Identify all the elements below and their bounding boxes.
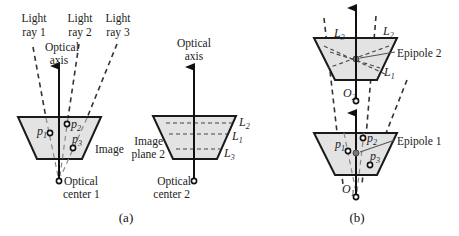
bottom-point-p2 — [360, 135, 365, 140]
L2-label: L2 — [238, 115, 250, 131]
caption-b: (b) — [349, 210, 364, 225]
bottom-point-p1 — [345, 148, 350, 153]
light-ray-1-line1: Light — [22, 12, 48, 25]
top-L2-label: L2 — [382, 24, 394, 40]
panel-a-camera-2: Optical axis L2 L1 L3 Image plane 2 Opti… — [131, 37, 249, 200]
panel-a-camera-1: Light ray 1 Light ray 2 Light ray 3 Opti… — [18, 12, 131, 200]
light-ray-2-line2: ray 2 — [68, 26, 92, 39]
point-p2 — [64, 121, 69, 126]
point-p1 — [47, 130, 52, 135]
light-ray-2 — [68, 44, 79, 118]
image-plane-2-line2: plane 2 — [131, 148, 165, 161]
light-ray-3-line1: Light — [106, 12, 132, 25]
optical-center-2-line1: Optical — [157, 175, 191, 188]
optical-center-1-point — [56, 178, 61, 183]
optical-axis-1-line1: Optical — [45, 41, 79, 54]
point-p3 — [70, 145, 75, 150]
L1-label: L1 — [231, 129, 243, 145]
light-ray-2-line1: Light — [68, 12, 94, 25]
optical-axis-2-line2: axis — [185, 50, 204, 62]
epipole-1-point — [353, 150, 359, 156]
caption-a: (a) — [119, 210, 133, 225]
O1-label: O1 — [342, 182, 355, 198]
optical-center-2-point — [191, 178, 196, 183]
optical-center-2-line2: center 2 — [153, 188, 190, 200]
panel-b: L3 L2 L1 Epipole 2 O2 p1 p2 p3 Epipole 1… — [314, 8, 442, 200]
image-plane-2-line1: Image — [134, 135, 163, 148]
O2-label: O2 — [343, 86, 356, 102]
optical-axis-2-line1: Optical — [177, 37, 211, 50]
epipolar-geometry-figure: Light ray 1 Light ray 2 Light ray 3 Opti… — [0, 0, 459, 236]
top-L3-label: L3 — [333, 26, 345, 42]
top-L1-label: L1 — [383, 65, 395, 81]
image-label: Image — [95, 143, 124, 156]
optical-axis-1-line2: axis — [50, 54, 69, 66]
optical-center-1-line2: center 1 — [63, 188, 100, 200]
light-ray-1-line2: ray 1 — [22, 26, 46, 39]
epipole-2-label: Epipole 2 — [397, 47, 442, 60]
light-ray-3 — [87, 44, 117, 118]
light-ray-3-line2: ray 3 — [106, 26, 130, 39]
epipole-1-label: Epipole 1 — [397, 135, 442, 148]
L3-label: L3 — [223, 146, 235, 162]
optical-center-1-line1: Optical — [64, 175, 98, 188]
bottom-point-p3 — [367, 162, 372, 167]
light-ray-1 — [33, 47, 46, 118]
